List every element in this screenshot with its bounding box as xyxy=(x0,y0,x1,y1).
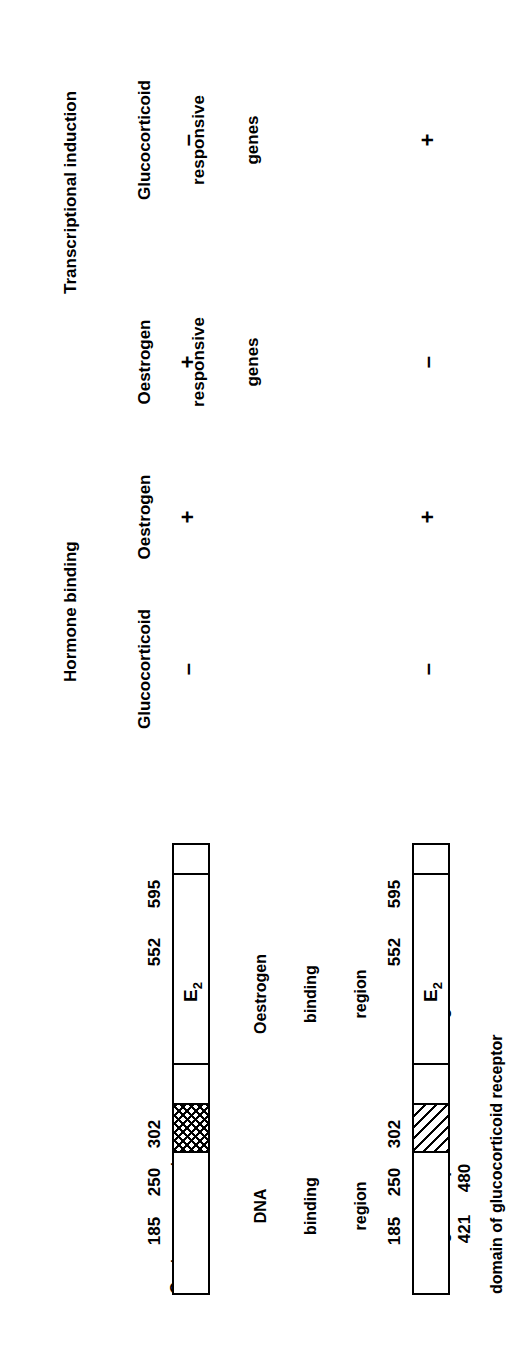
cell-r1-c1-glucocorticoid-binding: – xyxy=(176,654,199,684)
construct-2-label-line-2: domain of glucocorticoid receptor xyxy=(488,964,506,1294)
construct-2-tick-552 xyxy=(414,873,448,1293)
construct-1-marker-595: 595 xyxy=(146,876,164,912)
construct-1-e2-label: E2 xyxy=(181,982,205,1002)
column-header-oestrogen-responsive-genes-line-1: Oestrogen xyxy=(136,292,154,432)
construct-2-marker-595: 595 xyxy=(386,876,404,912)
construct-1-e2-subscript: 2 xyxy=(190,982,205,989)
annotation-oestrogen-binding-region: Oestrogen binding region xyxy=(219,934,404,1054)
cell-r1-c2-oestrogen-binding: + xyxy=(176,502,199,532)
construct-2-marker-421: 421 xyxy=(456,1211,474,1247)
column-header-oestrogen-line-1: Oestrogen xyxy=(136,452,154,582)
annotation-dna-binding-region-line-2: binding xyxy=(303,1158,320,1254)
annotation-oestrogen-binding-region-line-2: binding xyxy=(303,934,320,1054)
construct-2-e2-subscript: 2 xyxy=(430,982,445,989)
construct-2-bar xyxy=(412,843,450,1295)
column-header-oestrogen-responsive-genes-line-3: genes xyxy=(244,292,262,432)
construct-2-marker-250: 250 xyxy=(386,1164,404,1200)
construct-1-marker-302: 302 xyxy=(146,1116,164,1152)
construct-2-e2-label: E2 xyxy=(421,982,445,1002)
cell-r2-c1-glucocorticoid-binding: – xyxy=(416,654,439,684)
construct-2-marker-185: 185 xyxy=(386,1213,404,1249)
construct-1-e2-letter: E xyxy=(180,989,201,1002)
annotation-oestrogen-binding-region-line-1: Oestrogen xyxy=(253,934,270,1054)
cell-r2-c3-oestrogen-responsive-genes: – xyxy=(416,347,439,377)
construct-2-marker-302: 302 xyxy=(386,1116,404,1152)
annotation-dna-binding-region-line-1: DNA xyxy=(253,1158,270,1254)
column-header-glucocorticoid-responsive-genes-line-3: genes xyxy=(244,60,262,220)
construct-1-tick-552 xyxy=(174,873,208,1293)
construct-1-marker-552: 552 xyxy=(146,934,164,970)
annotation-dna-binding-region-line-3: region xyxy=(353,1158,370,1254)
annotation-oestrogen-binding-region-line-3: region xyxy=(353,934,370,1054)
column-header-glucocorticoid-line-1: Glucocorticoid xyxy=(136,594,154,744)
group-header-transcriptional-induction: Transcriptional induction xyxy=(62,91,80,294)
group-header-hormone-binding: Hormone binding xyxy=(62,541,80,682)
construct-2-marker-480: 480 xyxy=(456,1160,474,1196)
cell-r1-c3-oestrogen-responsive-genes: + xyxy=(176,347,199,377)
construct-2-e2-letter: E xyxy=(420,989,441,1002)
column-header-glucocorticoid-responsive-genes-line-1: Glucocorticoid xyxy=(136,60,154,220)
construct-1-marker-185: 185 xyxy=(146,1213,164,1249)
cell-r1-c4-glucocorticoid-responsive-genes: – xyxy=(176,125,199,155)
cell-r2-c2-oestrogen-binding: + xyxy=(416,502,439,532)
annotation-dna-binding-region: DNA binding region xyxy=(219,1158,404,1254)
construct-1-bar xyxy=(172,843,210,1295)
construct-1-marker-250: 250 xyxy=(146,1164,164,1200)
cell-r2-c4-glucocorticoid-responsive-genes: + xyxy=(416,125,439,155)
construct-2-marker-552: 552 xyxy=(386,934,404,970)
